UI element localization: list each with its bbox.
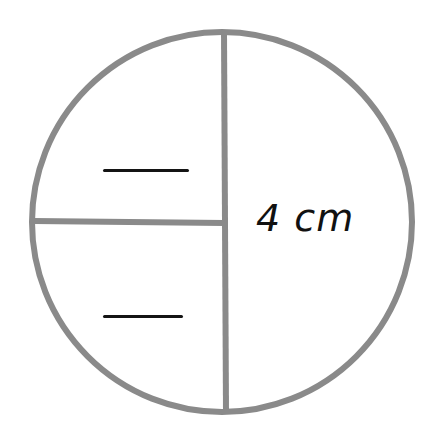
measurement-label: 4 cm bbox=[256, 196, 354, 240]
answer-blank-top bbox=[103, 169, 189, 172]
circle-fraction-diagram bbox=[0, 0, 441, 441]
answer-blank-bottom bbox=[103, 315, 183, 318]
horizontal-radius bbox=[34, 221, 224, 223]
vertical-diameter bbox=[224, 32, 226, 412]
